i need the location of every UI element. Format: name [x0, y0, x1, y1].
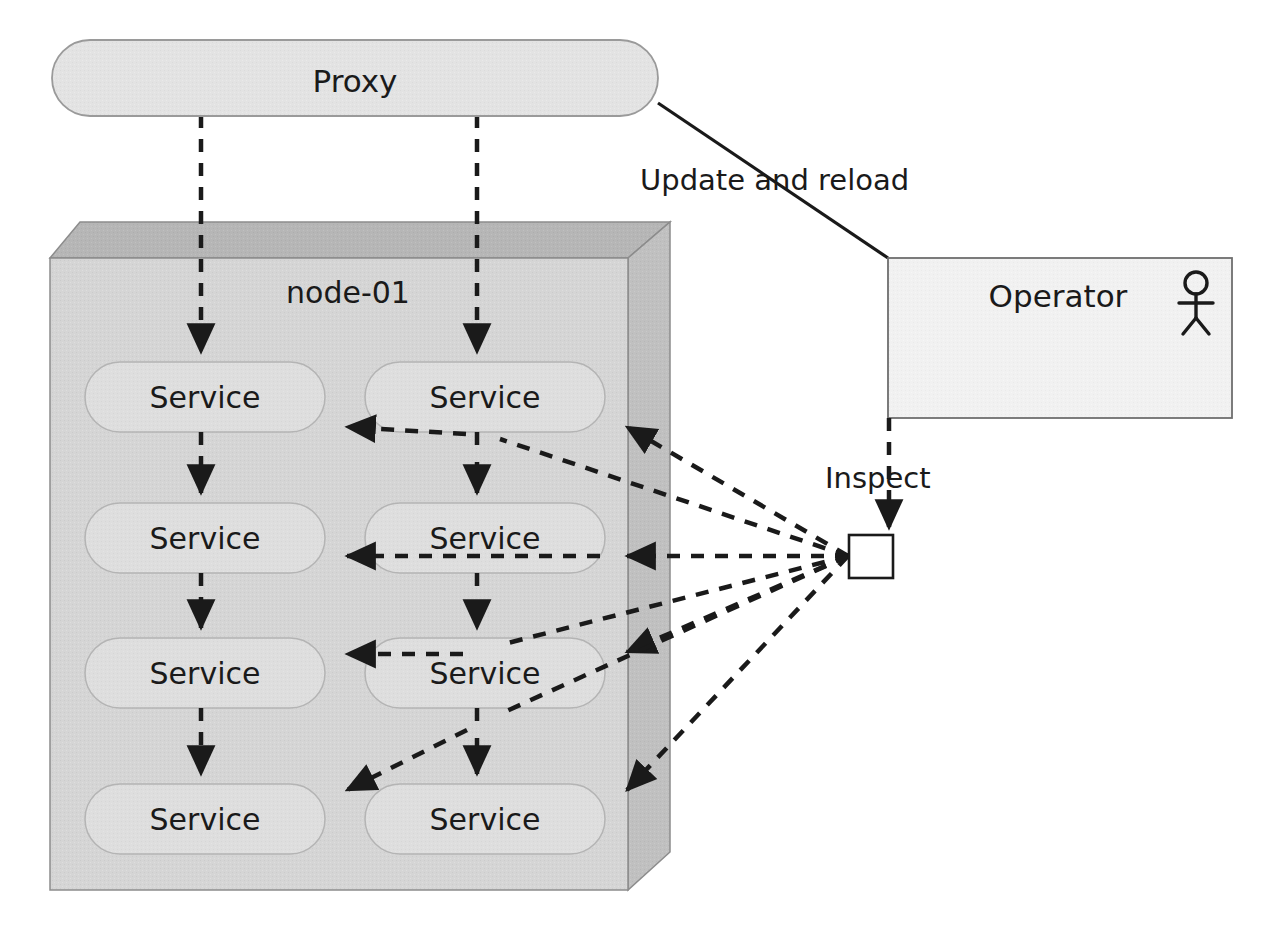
service-label: Service: [150, 656, 261, 691]
diagram-svg: node-01 Service Service Service Service: [0, 0, 1263, 934]
service-r4c1[interactable]: Service: [85, 784, 325, 854]
diagram-canvas: node-01 Service Service Service Service: [0, 0, 1263, 934]
operator-box[interactable]: Operator: [888, 258, 1232, 418]
service-label: Service: [150, 380, 261, 415]
service-label: Service: [430, 521, 541, 556]
service-label: Service: [150, 521, 261, 556]
service-r4c2[interactable]: Service: [365, 784, 605, 854]
service-r3c2[interactable]: Service: [365, 638, 605, 708]
service-r3c1[interactable]: Service: [85, 638, 325, 708]
service-label: Service: [430, 380, 541, 415]
service-label: Service: [150, 802, 261, 837]
service-r2c1[interactable]: Service: [85, 503, 325, 573]
inspect-hub-square[interactable]: [849, 535, 893, 578]
edge-update-and-reload[interactable]: Update and reload: [640, 103, 909, 258]
operator-label: Operator: [989, 278, 1128, 314]
proxy-label: Proxy: [313, 63, 398, 99]
node-label: node-01: [286, 275, 410, 310]
inspect-label: Inspect: [825, 461, 931, 495]
service-label: Service: [430, 802, 541, 837]
service-r2c2[interactable]: Service: [365, 503, 605, 573]
service-label: Service: [430, 656, 541, 691]
update-reload-label: Update and reload: [640, 163, 909, 197]
proxy-box[interactable]: Proxy: [52, 40, 658, 116]
service-r1c1[interactable]: Service: [85, 362, 325, 432]
edge-inspect[interactable]: Inspect: [825, 418, 931, 528]
hub-shape: [849, 535, 893, 578]
service-r1c2[interactable]: Service: [365, 362, 605, 432]
node-box-top-face: [50, 222, 670, 258]
